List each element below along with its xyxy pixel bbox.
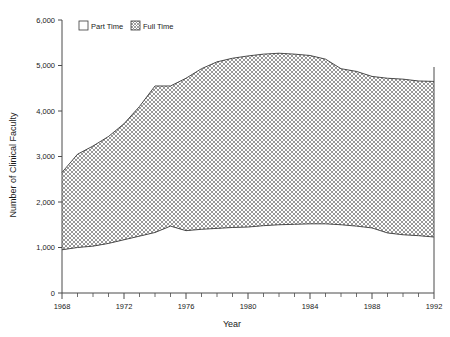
y-tick-label: 1,000	[36, 243, 55, 252]
area-full-time	[62, 53, 434, 250]
x-tick-label: 1972	[116, 302, 133, 311]
chart-legend: Part Time Full Time	[79, 21, 173, 31]
y-tick-label: 6,000	[36, 16, 55, 25]
x-tick-label: 1992	[426, 302, 443, 311]
y-axis-ticks: 01,0002,0003,0004,0005,0006,000	[36, 16, 62, 298]
chart-container: 01,0002,0003,0004,0005,0006,000 19681972…	[0, 0, 450, 337]
clinical-faculty-area-chart: 01,0002,0003,0004,0005,0006,000 19681972…	[0, 0, 450, 337]
x-tick-label: 1980	[240, 302, 257, 311]
x-axis-ticks: 1968197219761980198419881992	[54, 293, 443, 311]
legend-label-part-time: Part Time	[91, 22, 123, 31]
y-tick-label: 5,000	[36, 61, 55, 70]
x-axis-title: Year	[223, 319, 241, 329]
x-tick-label: 1988	[364, 302, 381, 311]
x-tick-label: 1984	[302, 302, 319, 311]
y-tick-label: 0	[51, 289, 55, 298]
x-tick-label: 1968	[54, 302, 71, 311]
y-axis-title: Number of Clinical Faculty	[8, 112, 18, 218]
legend-swatch-full-time	[131, 21, 140, 30]
y-tick-label: 3,000	[36, 152, 55, 161]
x-tick-label: 1976	[178, 302, 195, 311]
plot-series-group	[62, 53, 434, 250]
y-tick-label: 2,000	[36, 198, 55, 207]
legend-label-full-time: Full Time	[143, 22, 173, 31]
y-tick-label: 4,000	[36, 107, 55, 116]
legend-swatch-part-time	[79, 21, 88, 30]
